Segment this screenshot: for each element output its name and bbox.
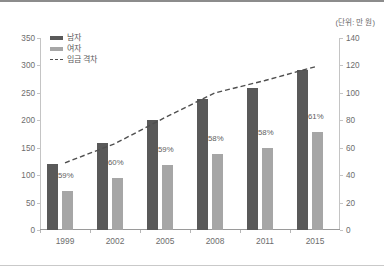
y-axis-right-tick-label: 140 <box>346 34 360 43</box>
y-axis-left-tick-label: 50 <box>26 198 35 207</box>
x-axis-tick-label: 2011 <box>243 236 287 246</box>
x-axis-tick-label: 2005 <box>143 236 187 246</box>
x-axis-tick-mark <box>290 230 291 233</box>
y-axis-right-tick-mark <box>340 175 343 176</box>
y-axis-left-tick-label: 150 <box>21 143 35 152</box>
y-axis-left-tick-label: 100 <box>21 171 35 180</box>
plot-area: 050100150200250300350 020406080100120140… <box>40 38 340 230</box>
y-axis-right-tick-mark <box>340 65 343 66</box>
y-axis-left-tick-label: 200 <box>21 116 35 125</box>
gap-line-path <box>65 67 315 163</box>
y-axis-right-tick-label: 40 <box>346 171 355 180</box>
y-axis-right-tick-label: 80 <box>346 116 355 125</box>
unit-note: (단위: 만 원) <box>336 16 375 27</box>
y-axis-right-tick-mark <box>340 120 343 121</box>
y-axis-left-tick-label: 300 <box>21 61 35 70</box>
y-axis-right-tick-label: 120 <box>346 61 360 70</box>
y-axis-right-tick-mark <box>340 38 343 39</box>
x-axis-tick-label: 2002 <box>93 236 137 246</box>
x-axis-tick-mark <box>240 230 241 233</box>
y-axis-left-tick-label: 250 <box>21 88 35 97</box>
y-axis-right-tick-mark <box>340 230 343 231</box>
y-axis-right-tick-mark <box>340 93 343 94</box>
x-axis-tick-mark <box>40 230 41 233</box>
y-axis-left-tick-label: 0 <box>30 226 35 235</box>
x-axis-tick-label: 2015 <box>293 236 337 246</box>
y-axis-right-tick-label: 60 <box>346 143 355 152</box>
x-axis-tick-mark <box>190 230 191 233</box>
gap-line-series <box>40 38 340 230</box>
chart-container: (단위: 만 원) 남자 여자 임금 격차 050100150200250300… <box>0 0 384 266</box>
y-axis-left-tick-label: 350 <box>21 34 35 43</box>
x-axis-tick-label: 1999 <box>43 236 87 246</box>
y-axis-right-tick-label: 0 <box>346 226 351 235</box>
x-axis-tick-mark <box>140 230 141 233</box>
x-axis-tick-mark <box>90 230 91 233</box>
x-axis-tick-label: 2008 <box>193 236 237 246</box>
y-axis-right-tick-mark <box>340 203 343 204</box>
y-axis-right-tick-label: 20 <box>346 198 355 207</box>
y-axis-right-tick-label: 100 <box>346 88 360 97</box>
y-axis-right-tick-mark <box>340 148 343 149</box>
